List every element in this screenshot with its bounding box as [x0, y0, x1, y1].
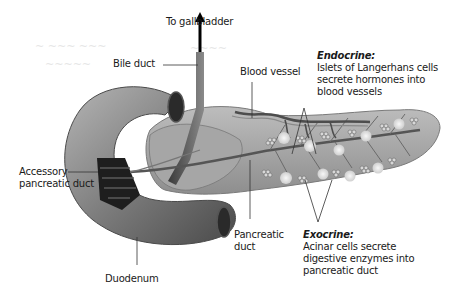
pancreatic-duct-line2: duct [234, 241, 255, 252]
label-bile-duct: Bile duct [113, 58, 155, 70]
endocrine-line2: secrete hormones into [317, 74, 425, 85]
exocrine-line1: Acinar cells secrete [303, 241, 396, 252]
label-to-gallbladder: To gallbladder [166, 16, 233, 28]
pancreatic-duct-line1: Pancreatic [234, 229, 284, 240]
endocrine-line3: blood vessels [317, 86, 382, 97]
accessory-line1: Accessory [19, 166, 68, 177]
label-blood-vessel: Blood vessel [240, 66, 300, 78]
label-accessory-pancreatic-duct: Accessory pancreatic duct [19, 166, 94, 190]
accessory-line2: pancreatic duct [19, 178, 94, 189]
pancreas-diagram: ~ ~~~ ~~~ ~~~~~ ~~~~ [0, 0, 451, 300]
endocrine-title: Endocrine: [317, 50, 375, 61]
duodenum-opening-top [168, 92, 184, 122]
duodenum-opening-bottom [217, 207, 231, 237]
label-exocrine: Exocrine: Acinar cells secrete digestive… [303, 229, 414, 277]
label-endocrine: Endocrine: Islets of Langerhans cells se… [317, 50, 438, 98]
exocrine-line2: digestive enzymes into [303, 253, 414, 264]
exocrine-line3: pancreatic duct [303, 265, 378, 276]
label-pancreatic-duct: Pancreatic duct [234, 229, 284, 253]
label-duodenum: Duodenum [105, 273, 158, 285]
exocrine-title: Exocrine: [303, 229, 354, 240]
endocrine-line1: Islets of Langerhans cells [317, 62, 438, 73]
